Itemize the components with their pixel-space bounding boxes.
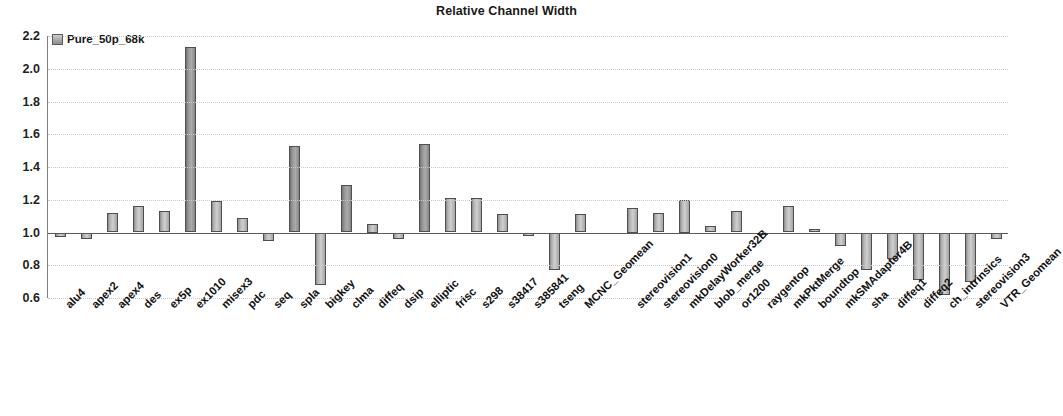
gridline	[48, 36, 1008, 37]
bar	[419, 144, 430, 232]
bar	[237, 218, 248, 233]
bar	[315, 233, 326, 285]
bar	[159, 211, 170, 232]
bar	[913, 233, 924, 280]
bar	[679, 200, 690, 233]
gridline	[48, 102, 1008, 103]
y-axis-tick-label: 0.8	[4, 258, 40, 272]
gridline	[48, 69, 1008, 70]
gridline	[48, 200, 1008, 201]
chart-title: Relative Channel Width	[0, 4, 1013, 18]
bar	[367, 224, 378, 232]
y-axis-tick-label: 1.6	[4, 127, 40, 141]
gridline	[48, 298, 1008, 299]
bar	[731, 211, 742, 232]
bar	[133, 206, 144, 232]
bar	[575, 214, 586, 232]
y-axis-tick-label: 2.0	[4, 62, 40, 76]
bar	[471, 198, 482, 232]
bar	[445, 198, 456, 232]
bar	[497, 214, 508, 232]
bar	[705, 226, 716, 233]
bar	[627, 208, 638, 233]
bar	[185, 47, 196, 232]
y-axis-tick-label: 1.2	[4, 193, 40, 207]
bar	[341, 185, 352, 232]
bar	[107, 213, 118, 233]
bar	[783, 206, 794, 232]
bar	[653, 213, 664, 233]
bar	[211, 201, 222, 232]
y-axis-tick-label: 1.4	[4, 160, 40, 174]
y-axis-tick-label: 1.8	[4, 95, 40, 109]
gridline	[48, 167, 1008, 168]
gridline	[48, 134, 1008, 135]
y-axis-tick-label: 1.0	[4, 226, 40, 240]
plot-area	[47, 36, 1008, 298]
gridline	[48, 265, 1008, 266]
bar	[263, 233, 274, 241]
y-axis-tick-label: 2.2	[4, 29, 40, 43]
bar	[289, 146, 300, 233]
bar	[835, 233, 846, 246]
baseline-axis	[48, 233, 1008, 234]
x-axis-category-labels: alu4apex2apex4desex5pex1010misex3pdcseqs…	[0, 300, 1013, 416]
